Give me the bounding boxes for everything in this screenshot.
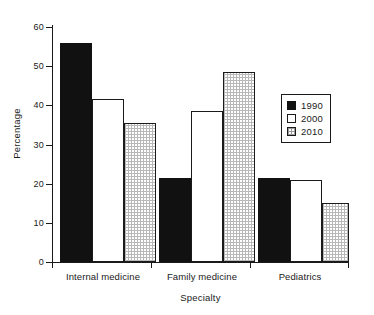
bar-2000-internal-medicine [92,99,124,262]
legend: 1990 2000 2010 [281,94,331,143]
y-tick-20 [46,184,53,185]
bar-1990-internal-medicine [60,43,92,262]
y-tick-label-0: 0 [18,258,44,267]
x-category-label-pediatrics: Pediatrics [250,271,350,282]
bar-2000-family-medicine [191,111,223,262]
x-tick-end [348,262,349,268]
legend-item-2010: 2010 [287,125,323,138]
bar-chart-figure: Percentage 0 10 20 30 40 50 60 Internal … [0,0,374,315]
x-tick-group-1-2 [151,262,152,268]
legend-swatch-1990-icon [287,101,296,110]
x-tick-group-2-3 [250,262,251,268]
legend-swatch-2000-icon [287,114,296,123]
legend-item-1990: 1990 [287,99,323,112]
x-category-label-internal-medicine: Internal medicine [48,271,158,282]
y-tick-60 [46,27,53,28]
x-axis-label: Specialty [52,292,349,303]
bar-1990-pediatrics [258,178,290,262]
y-tick-10 [46,223,53,224]
legend-label-1990: 1990 [301,101,323,111]
y-axis-line [52,25,53,263]
y-tick-50 [46,66,53,67]
y-tick-label-20: 20 [18,180,44,189]
y-axis-label: Percentage [11,74,22,194]
legend-label-2010: 2010 [301,127,323,137]
y-tick-label-30: 30 [18,141,44,150]
bar-1990-family-medicine [159,178,191,262]
legend-swatch-2010-icon [287,127,296,136]
y-tick-30 [46,145,53,146]
y-tick-40 [46,105,53,106]
y-tick-label-50: 50 [18,62,44,71]
y-tick-label-60: 60 [18,23,44,32]
bar-2010-internal-medicine [124,123,156,262]
x-category-label-family-medicine: Family medicine [147,271,257,282]
legend-label-2000: 2000 [301,114,323,124]
bar-2010-family-medicine [223,72,255,262]
bar-2010-pediatrics [322,203,349,262]
y-tick-label-10: 10 [18,219,44,228]
x-tick-start [52,262,53,268]
y-tick-label-40: 40 [18,101,44,110]
x-axis-line [52,262,349,263]
bar-2000-pediatrics [290,180,322,262]
legend-item-2000: 2000 [287,112,323,125]
